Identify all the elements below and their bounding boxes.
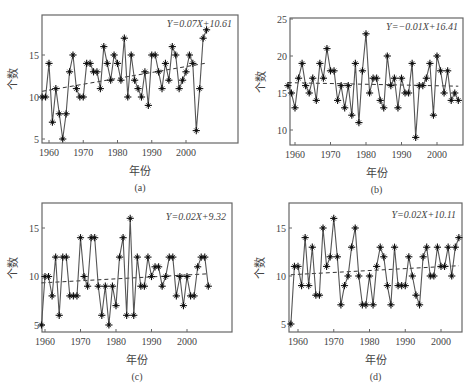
y-tick-label: 15 xyxy=(29,50,39,61)
x-tick-label: 2000 xyxy=(431,336,451,347)
y-tick-label: 15 xyxy=(29,223,39,234)
y-tick-label: 5 xyxy=(281,319,286,330)
y-tick-label: 20 xyxy=(277,51,287,62)
y-axis-label: 个数 xyxy=(7,257,20,279)
x-axis-label: 年份 xyxy=(129,164,151,178)
x-tick-label: 1990 xyxy=(395,336,415,347)
x-tick-label: 1970 xyxy=(324,336,344,347)
y-axis: 51015 xyxy=(276,223,292,330)
y-tick-label: 15 xyxy=(277,88,287,99)
plot-frame xyxy=(42,15,238,143)
y-axis-label: 个数 xyxy=(7,68,20,90)
data-series-line xyxy=(288,34,458,138)
x-tick-label: 1980 xyxy=(360,336,380,347)
x-tick-label: 1980 xyxy=(356,149,376,160)
y-tick-label: 10 xyxy=(29,92,39,103)
x-tick-label: 1970 xyxy=(73,147,93,158)
y-tick-label: 15 xyxy=(276,223,286,234)
x-tick-label: 2000 xyxy=(177,336,197,347)
x-tick-label: 1960 xyxy=(39,147,59,158)
chart-panel-d: 5101519601970198019902000年份(d)个数Y=0.02X+… xyxy=(254,203,462,383)
panel-caption: (c) xyxy=(131,371,142,383)
x-tick-label: 1960 xyxy=(285,149,305,160)
x-axis-label: 年份 xyxy=(366,166,388,180)
figure-canvas: 5101519601970198019902000年份(a)个数Y=0.07X+… xyxy=(0,0,470,387)
y-tick-label: 10 xyxy=(29,271,39,282)
x-axis-label: 年份 xyxy=(126,353,148,367)
x-tick-label: 1990 xyxy=(142,336,162,347)
chart-panel-c: 5101519601970198019902000年份(c)个数Y=0.02X+… xyxy=(7,203,232,383)
regression-equation: Y=0.02X+10.11 xyxy=(392,209,456,220)
x-tick-label: 1980 xyxy=(106,336,126,347)
x-tick-label: 2000 xyxy=(427,149,447,160)
x-axis-label: 年份 xyxy=(365,353,387,367)
panel-caption: (b) xyxy=(371,184,383,196)
y-tick-label: 25 xyxy=(277,14,287,25)
panel-caption: (a) xyxy=(134,182,145,194)
data-series-line xyxy=(291,218,459,324)
x-tick-label: 1990 xyxy=(142,147,162,158)
figure-grid: 5101519601970198019902000年份(a)个数Y=0.07X+… xyxy=(0,0,470,387)
y-axis: 15202510 xyxy=(277,14,293,136)
trend-line xyxy=(42,63,206,91)
x-tick-label: 1990 xyxy=(392,149,412,160)
x-tick-label: 1960 xyxy=(288,336,308,347)
x-tick-label: 1970 xyxy=(71,336,91,347)
x-tick-label: 1960 xyxy=(35,336,55,347)
y-tick-label: 10 xyxy=(276,271,286,282)
y-tick-label: 10 xyxy=(277,125,287,136)
y-axis-label: 个数 xyxy=(254,257,267,279)
regression-equation: Y=−0.01X+16.41 xyxy=(386,21,458,32)
star-markers xyxy=(287,215,462,328)
chart-panel-a: 5101519601970198019902000年份(a)个数Y=0.07X+… xyxy=(7,15,238,194)
regression-equation: Y=0.02X+9.32 xyxy=(166,211,226,222)
x-tick-label: 1980 xyxy=(108,147,128,158)
y-tick-label: 5 xyxy=(34,134,39,145)
panel-caption: (d) xyxy=(370,371,382,383)
x-tick-label: 1970 xyxy=(321,149,341,160)
regression-equation: Y=0.07X+10.61 xyxy=(167,18,232,29)
x-tick-label: 2000 xyxy=(176,147,196,158)
data-series-line xyxy=(42,30,207,139)
y-axis-label: 个数 xyxy=(255,71,268,93)
chart-panel-b: 1520251019601970198019902000年份(b)个数Y=−0.… xyxy=(255,14,463,197)
